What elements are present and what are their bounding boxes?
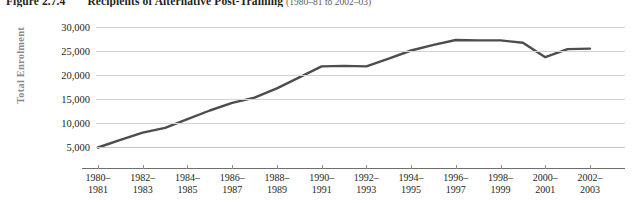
x-tick-mark (98, 165, 99, 169)
figure-container: Figure 2.7.4Recipients of Alternative Po… (0, 0, 633, 203)
x-tick-mark (232, 165, 233, 169)
x-tick-mark (366, 165, 367, 169)
x-tick-mark (322, 165, 323, 169)
x-tick-label: 1982–1983 (130, 172, 155, 195)
x-tick-mark (277, 165, 278, 169)
x-tick-mark (143, 165, 144, 169)
x-tick-label: 2002–2003 (578, 172, 603, 195)
x-tick-mark (545, 165, 546, 169)
x-tick-label: 1994–1995 (399, 172, 424, 195)
x-tick-label: 1996–1997 (443, 172, 468, 195)
x-tick-label: 1990–1991 (309, 172, 334, 195)
x-tick-mark (187, 165, 188, 169)
x-tick-mark (590, 165, 591, 169)
x-tick-mark (411, 165, 412, 169)
x-tick-label: 1992–1993 (354, 172, 379, 195)
x-tick-label: 1998–1999 (488, 172, 513, 195)
x-tick-label: 1986–1987 (220, 172, 245, 195)
x-tick-label: 1980–1981 (86, 172, 111, 195)
x-axis-tick-labels: 1980–19811982–19831984–19851986–19871988… (0, 0, 633, 203)
x-tick-mark (501, 165, 502, 169)
x-tick-label: 1984–1985 (175, 172, 200, 195)
x-tick-mark (456, 165, 457, 169)
x-tick-label: 2000–2001 (533, 172, 558, 195)
x-tick-label: 1988–1989 (264, 172, 289, 195)
